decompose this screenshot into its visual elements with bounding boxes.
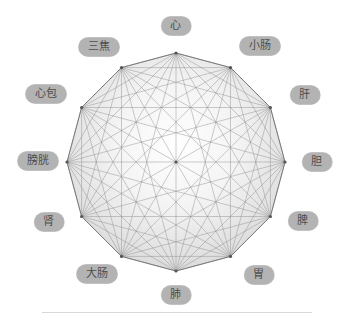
node-label-small-intestine[interactable]: 小肠	[240, 37, 281, 56]
node-label-large-intestine[interactable]: 大肠	[77, 265, 118, 284]
graph-vertex-lung[interactable]	[174, 269, 177, 272]
graph-vertex-triple-burner[interactable]	[120, 66, 123, 69]
graph-vertex-gallbladder[interactable]	[283, 160, 286, 163]
graph-vertex-liver[interactable]	[269, 106, 272, 109]
node-label-stomach[interactable]: 胃	[244, 266, 274, 285]
node-label-pericardium[interactable]: 心包	[26, 85, 67, 104]
bottom-divider	[42, 312, 312, 313]
graph-vertex-kidney[interactable]	[80, 215, 83, 218]
node-label-spleen[interactable]: 脾	[288, 212, 318, 231]
node-label-bladder[interactable]: 膀胱	[18, 152, 59, 171]
graph-vertex-stomach[interactable]	[229, 255, 232, 258]
graph-vertex-heart[interactable]	[174, 51, 177, 54]
node-label-lung[interactable]: 肺	[161, 286, 191, 305]
node-label-gallbladder[interactable]: 胆	[302, 153, 332, 172]
graph-vertex-bladder[interactable]	[65, 160, 68, 163]
graph-vertex-pericardium[interactable]	[80, 106, 83, 109]
graph-vertex-small-intestine[interactable]	[229, 66, 232, 69]
node-label-kidney[interactable]: 肾	[34, 213, 64, 232]
graph-vertex-large-intestine[interactable]	[120, 255, 123, 258]
meridian-relationship-diagram: 心小肠肝胆脾胃肺大肠肾膀胱心包三焦	[0, 0, 353, 321]
graph-vertex-spleen[interactable]	[269, 215, 272, 218]
node-label-triple-burner[interactable]: 三焦	[79, 38, 120, 57]
node-label-heart[interactable]: 心	[161, 17, 191, 36]
node-label-liver[interactable]: 肝	[290, 86, 320, 105]
graph-center-point	[174, 160, 177, 163]
